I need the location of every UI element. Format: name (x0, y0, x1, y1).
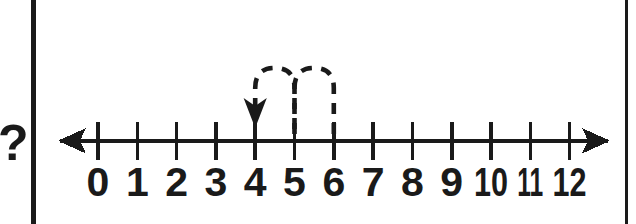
left-vertical-rule (31, 0, 36, 224)
tick-label-6: 6 (322, 159, 345, 205)
right-vertical-rule (625, 0, 628, 224)
tick-label-0: 0 (87, 159, 110, 205)
tick-mark (371, 122, 375, 160)
tick-mark (489, 122, 493, 160)
tick-label-1: 1 (126, 159, 149, 205)
tick-mark (568, 122, 572, 160)
tick-label-11: 11 (517, 159, 543, 205)
tick-label-8: 8 (401, 159, 424, 205)
tick-label-7: 7 (362, 159, 385, 205)
tick-label-12: 12 (553, 159, 587, 205)
tick-mark (529, 122, 533, 160)
tick-label-3: 3 (204, 159, 227, 205)
tick-label-5: 5 (283, 159, 306, 205)
tick-label-2: 2 (165, 159, 188, 205)
number-line-figure: ? (0, 0, 636, 224)
tick-label-10: 10 (474, 159, 508, 205)
tick-mark (175, 122, 179, 160)
tick-mark (136, 122, 140, 160)
number-line-canvas: ? (0, 0, 636, 224)
tick-mark (450, 122, 454, 160)
tick-label-4: 4 (244, 159, 267, 205)
tick-mark (96, 122, 100, 160)
tick-mark (411, 122, 415, 160)
tick-mark (214, 122, 218, 160)
tick-label-9: 9 (440, 159, 463, 205)
question-mark: ? (0, 115, 29, 171)
